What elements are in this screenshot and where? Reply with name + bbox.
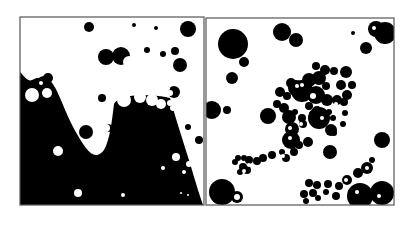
black-disc bbox=[226, 72, 238, 84]
black-disc bbox=[342, 110, 348, 116]
black-disc bbox=[321, 94, 333, 106]
black-disc bbox=[323, 189, 329, 195]
black-disc bbox=[331, 130, 337, 136]
black-disc bbox=[282, 110, 296, 124]
black-disc bbox=[324, 180, 332, 188]
panel-content bbox=[203, 18, 396, 209]
black-disc bbox=[279, 149, 285, 155]
black-disc bbox=[330, 115, 336, 121]
black-disc bbox=[374, 22, 396, 44]
black-disc bbox=[232, 159, 238, 165]
black-disc bbox=[223, 106, 231, 114]
black-disc bbox=[253, 157, 261, 165]
white-highlight bbox=[281, 154, 285, 158]
black-disc bbox=[237, 169, 243, 175]
black-disc bbox=[370, 181, 394, 205]
black-disc bbox=[315, 195, 321, 201]
black-disc bbox=[305, 179, 313, 187]
black-disc bbox=[348, 81, 356, 89]
black-disc bbox=[300, 190, 308, 198]
black-disc bbox=[340, 66, 352, 78]
white-highlight bbox=[372, 26, 376, 30]
black-disc bbox=[289, 33, 303, 47]
black-disc bbox=[323, 145, 337, 159]
white-highlight bbox=[355, 190, 359, 194]
white-highlight bbox=[288, 126, 292, 130]
white-highlight bbox=[299, 122, 303, 126]
white-highlight bbox=[295, 84, 299, 88]
black-disc bbox=[312, 62, 320, 70]
white-highlight bbox=[334, 102, 338, 106]
white-highlight bbox=[234, 194, 240, 200]
black-disc bbox=[260, 108, 276, 124]
white-highlight bbox=[310, 93, 316, 99]
black-disc bbox=[239, 57, 249, 67]
black-disc bbox=[309, 189, 317, 197]
black-disc bbox=[374, 132, 390, 148]
black-disc bbox=[340, 121, 346, 127]
black-disc bbox=[273, 23, 291, 41]
black-disc bbox=[360, 42, 372, 54]
black-disc bbox=[303, 137, 313, 147]
white-highlight bbox=[288, 136, 292, 140]
black-disc bbox=[335, 182, 343, 190]
black-disc bbox=[351, 31, 355, 35]
black-disc bbox=[322, 82, 330, 90]
white-highlight bbox=[247, 163, 251, 167]
black-disc bbox=[369, 157, 375, 163]
black-disc bbox=[290, 148, 298, 156]
white-highlight bbox=[300, 83, 304, 87]
black-disc bbox=[303, 198, 309, 204]
black-disc bbox=[305, 102, 313, 110]
black-disc bbox=[336, 80, 346, 90]
white-highlight bbox=[377, 194, 381, 198]
black-disc bbox=[308, 107, 330, 129]
black-disc bbox=[241, 155, 247, 161]
black-disc bbox=[268, 151, 276, 159]
white-highlight bbox=[365, 166, 369, 170]
white-highlight bbox=[344, 178, 348, 182]
black-disc bbox=[283, 92, 291, 100]
black-disc bbox=[313, 181, 321, 189]
black-disc bbox=[353, 168, 363, 178]
white-highlight bbox=[242, 169, 246, 173]
right-panel-canvas bbox=[0, 0, 414, 225]
black-disc bbox=[218, 29, 248, 59]
white-highlight bbox=[320, 116, 324, 120]
figure bbox=[0, 0, 414, 225]
black-disc bbox=[295, 141, 303, 149]
black-disc bbox=[209, 179, 235, 205]
black-disc bbox=[330, 67, 338, 75]
black-disc bbox=[332, 192, 340, 200]
